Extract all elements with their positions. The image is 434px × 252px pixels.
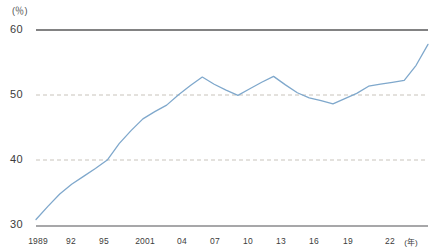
data-line-series-1 [36, 44, 428, 219]
line-chart: (％) 60 50 40 30 1989 92 95 2001 04 07 10… [0, 0, 434, 252]
plot-area [0, 0, 434, 252]
